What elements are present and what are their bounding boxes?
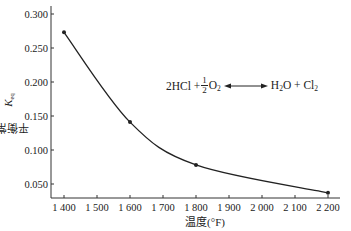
data-points	[62, 30, 330, 194]
x-tick-label: 2 000	[250, 202, 274, 213]
equation-reactant-hcl: 2HCl +	[166, 80, 200, 92]
y-tick-label: 0.250	[24, 43, 48, 54]
equation-fraction: 1 2	[201, 76, 208, 95]
chart: 0.0500.1000.1500.2000.2500.300 1 4001 50…	[0, 0, 351, 231]
x-tick-label: 1 700	[151, 202, 175, 213]
y-tick-label: 0.050	[24, 179, 48, 190]
data-point-marker	[326, 191, 330, 195]
x-tick-label: 1 600	[118, 202, 142, 213]
equilibrium-arrow-icon	[224, 81, 268, 91]
data-curve	[64, 32, 328, 192]
y-axis-title: 平衡常数Keq	[0, 62, 14, 182]
y-axis-title-text: 平衡常数	[0, 121, 29, 137]
y-axis-ticks: 0.0500.1000.1500.2000.2500.300	[24, 9, 54, 190]
x-axis-title: 温度(°F)	[185, 215, 225, 229]
x-tick-label: 2 200	[316, 202, 340, 213]
y-tick-label: 0.200	[24, 77, 48, 88]
x-tick-label: 2 100	[283, 202, 307, 213]
data-point-marker	[128, 120, 132, 124]
data-point-marker	[62, 30, 66, 34]
axes	[51, 6, 340, 198]
reaction-equation: 2HCl + 1 2 O2 H2O + Cl2	[166, 76, 318, 95]
y-tick-label: 0.300	[24, 9, 48, 20]
data-point-marker	[194, 163, 198, 167]
x-tick-label: 1 800	[184, 202, 208, 213]
y-axis-title-subscript: eq	[8, 93, 15, 99]
equation-reactant-o2: O2	[209, 79, 221, 93]
x-tick-label: 1 400	[52, 202, 76, 213]
equation-products: H2O + Cl2	[271, 79, 318, 93]
fraction-denominator: 2	[202, 86, 207, 95]
y-axis-title-symbol: K	[2, 99, 14, 106]
x-tick-label: 1 900	[217, 202, 241, 213]
y-tick-label: 0.100	[24, 145, 48, 156]
x-tick-label: 1 500	[85, 202, 109, 213]
